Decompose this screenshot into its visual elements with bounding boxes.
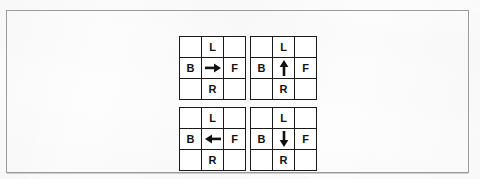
cell-label-left: B — [251, 129, 273, 150]
figure-frame: L B F R L — [6, 10, 469, 173]
cell-label-bottom: R — [273, 79, 295, 100]
page-background: L B F R L — [0, 0, 480, 179]
grid-bottom-left: L B F R — [179, 107, 246, 171]
cell-label-top: L — [273, 37, 295, 58]
cell-label-left: B — [180, 129, 202, 150]
cell-center — [273, 129, 295, 150]
cell-label-left: B — [251, 58, 273, 79]
grid-cluster: L B F R L — [179, 36, 318, 174]
cell-r0c0 — [251, 108, 273, 129]
cell-label-right: F — [224, 58, 246, 79]
cell-center — [273, 58, 295, 79]
cell-r0c0 — [251, 37, 273, 58]
cell-r2c2 — [224, 79, 246, 100]
cell-label-bottom: R — [202, 150, 224, 171]
cell-label-bottom: R — [273, 150, 295, 171]
cell-label-right: F — [295, 129, 317, 150]
cell-r2c2 — [224, 150, 246, 171]
cell-label-top: L — [273, 108, 295, 129]
arrow-left-icon — [204, 132, 222, 146]
cell-r0c0 — [180, 37, 202, 58]
cell-r2c0 — [251, 79, 273, 100]
cell-r2c0 — [180, 150, 202, 171]
cell-r0c2 — [224, 108, 246, 129]
arrow-up-icon — [277, 59, 291, 77]
cell-center — [202, 129, 224, 150]
grid-top-right: L B F R — [250, 36, 317, 100]
cell-label-top: L — [202, 108, 224, 129]
cell-label-top: L — [202, 37, 224, 58]
grid-bottom-right: L B F R — [250, 107, 317, 171]
cell-label-left: B — [180, 58, 202, 79]
cell-r0c2 — [295, 108, 317, 129]
cell-r2c0 — [180, 79, 202, 100]
cell-label-right: F — [224, 129, 246, 150]
arrow-down-icon — [277, 130, 291, 148]
grid-top-left: L B F R — [179, 36, 246, 100]
cell-r2c2 — [295, 150, 317, 171]
cell-label-bottom: R — [202, 79, 224, 100]
cell-center — [202, 58, 224, 79]
cell-r0c0 — [180, 108, 202, 129]
arrow-right-icon — [204, 61, 222, 75]
cell-r0c2 — [295, 37, 317, 58]
cell-label-right: F — [295, 58, 317, 79]
cell-r0c2 — [224, 37, 246, 58]
cell-r2c2 — [295, 79, 317, 100]
cell-r2c0 — [251, 150, 273, 171]
